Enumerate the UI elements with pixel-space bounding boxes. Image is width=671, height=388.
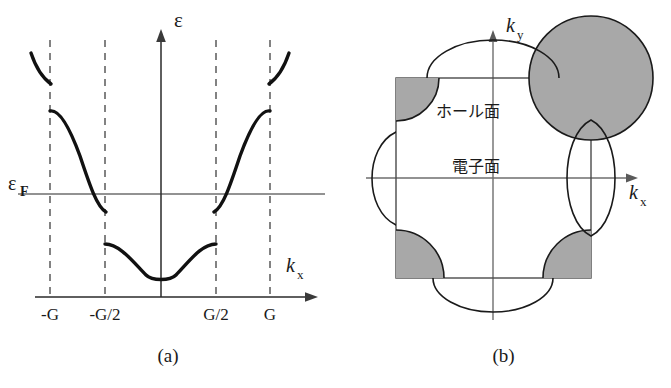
panel-a-caption: (a): [0, 345, 336, 367]
hole-pocket-bottom-right-quarter: [543, 230, 639, 326]
panel-b-caption: (b): [336, 345, 671, 367]
energy-axis-arrow-icon: [156, 29, 166, 42]
electron-surface-label: 電子面: [452, 157, 500, 176]
kx-axis-label-base: k: [629, 181, 639, 203]
hole-pocket-top-left-quarter: [353, 35, 439, 121]
hole-pocket-bottom-left-quarter: [348, 230, 444, 326]
tick-label-plus-G: G: [264, 305, 276, 324]
ky-axis-label-base: k: [506, 14, 516, 36]
band-3-left-fragment: [31, 53, 51, 84]
band-2-left-branch: [50, 111, 106, 212]
panel-a-band-structure: ε k x ε F -G -G/2 G/2 G (a): [0, 0, 336, 388]
ky-axis-label: k y: [506, 14, 524, 42]
band-3-right-fragment: [269, 53, 289, 84]
kx-axis-label-sub: x: [297, 267, 304, 282]
fermi-energy-label: ε F: [8, 172, 29, 199]
tick-label-minus-G-half: -G/2: [89, 305, 120, 324]
tick-label-minus-G: -G: [41, 305, 59, 324]
band-structure-plot: ε k x ε F -G -G/2 G/2 G: [0, 0, 336, 345]
energy-axis-label: ε: [174, 8, 183, 32]
figure-root: ε k x ε F -G -G/2 G/2 G (a): [0, 0, 671, 388]
ky-axis-label-sub: y: [517, 27, 524, 42]
kx-axis-label-sub: x: [640, 194, 647, 209]
hole-pocket-top-right-circle: [529, 16, 653, 140]
fermi-energy-label-sub: F: [20, 184, 29, 199]
band-2-right-branch: [214, 111, 270, 212]
hole-surface-label: ホール面: [436, 102, 500, 121]
kx-axis-label-base: k: [286, 254, 296, 276]
kx-axis-label: k x: [629, 181, 647, 209]
tick-label-plus-G-half: G/2: [203, 305, 229, 324]
panel-b-fermi-surface: k y k x ホール面 電子面 (b): [336, 0, 671, 388]
fermi-surface-plot: k y k x ホール面 電子面: [336, 0, 671, 345]
kx-axis-arrow-icon: [305, 292, 318, 302]
fermi-energy-label-base: ε: [8, 172, 16, 194]
kx-axis-label: k x: [286, 254, 304, 282]
